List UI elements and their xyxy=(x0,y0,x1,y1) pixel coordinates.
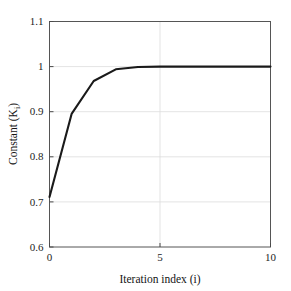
y-axis-tick-label: 0.8 xyxy=(30,150,44,162)
x-axis-tick-label: 10 xyxy=(265,251,277,263)
x-axis-title: Iteration index (i) xyxy=(119,273,200,286)
chart-figure: 0.60.70.80.911.1 0510 Iteration index (i… xyxy=(0,0,291,291)
x-axis-tick-label: 5 xyxy=(157,251,163,263)
y-axis-title-main: Constant (K xyxy=(7,108,20,165)
y-axis-tick-label: 1 xyxy=(38,60,44,72)
y-axis-title-tail: ) xyxy=(7,103,20,107)
y-axis-tick-label: 0.6 xyxy=(30,241,44,253)
y-axis-tick-label: 0.7 xyxy=(30,196,44,208)
line-chart: 0.60.70.80.911.1 0510 Iteration index (i… xyxy=(0,0,291,291)
y-axis-tick-label: 0.9 xyxy=(30,105,44,117)
x-axis-tick-label: 0 xyxy=(47,251,53,263)
y-axis-tick-label: 1.1 xyxy=(30,15,44,27)
